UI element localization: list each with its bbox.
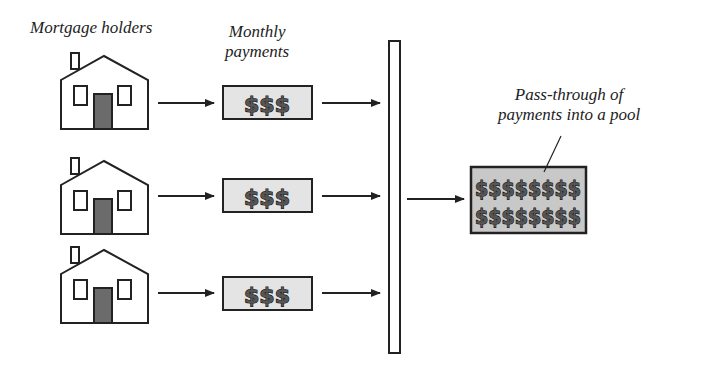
collector-bar [389, 41, 400, 353]
house-icon [61, 247, 148, 323]
house-icon [61, 53, 148, 129]
house-icon [61, 158, 148, 234]
pool-box: $$$$$$$$ $$$$$$$$ [471, 167, 586, 233]
payment-box: $$$ [223, 179, 312, 212]
dollar-icon: $$$ [244, 283, 290, 308]
dollar-icon: $$$$$$$$ [475, 204, 581, 229]
diagram-canvas: $$$ $$$ $$$ $$$$$$$$ $$$$$$$$ [0, 0, 727, 374]
payment-box: $$$ [223, 277, 312, 310]
payment-box: $$$ [223, 86, 312, 119]
dollar-icon: $$$$$$$$ [475, 176, 581, 201]
dollar-icon: $$$ [244, 92, 290, 117]
dollar-icon: $$$ [244, 185, 290, 210]
